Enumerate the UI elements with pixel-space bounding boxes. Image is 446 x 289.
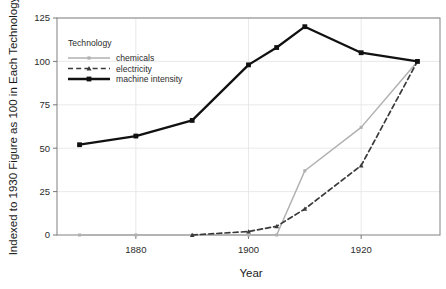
x-tick-label: 1920: [351, 244, 372, 255]
x-tick-label: 1900: [238, 244, 259, 255]
legend-label: electricity: [116, 64, 153, 74]
data-point-marker: [246, 62, 251, 67]
x-axis-title: Year: [239, 267, 262, 279]
chart-container: 0255075100125 188019001920 Year Indexed …: [0, 0, 446, 289]
data-point-marker: [303, 169, 306, 172]
x-axis-ticks: 188019001920: [125, 235, 371, 255]
y-tick-label: 50: [39, 143, 50, 154]
x-tick-label: 1880: [125, 244, 146, 255]
data-point-marker: [78, 234, 81, 237]
data-point-marker: [87, 77, 92, 82]
legend-label: chemicals: [116, 53, 154, 63]
data-point-marker: [77, 142, 82, 147]
data-point-marker: [302, 24, 307, 29]
data-point-marker: [359, 50, 364, 55]
legend-title: Technology: [68, 38, 112, 48]
y-tick-label: 125: [34, 12, 50, 23]
y-axis-ticks: 0255075100125: [34, 12, 57, 240]
data-point-marker: [275, 234, 278, 237]
y-tick-label: 100: [34, 56, 50, 67]
y-axis-title: Indexed to 1930 Figure as 100 in Each Te…: [7, 0, 19, 255]
line-chart: 0255075100125 188019001920 Year Indexed …: [0, 0, 446, 289]
data-point-marker: [133, 134, 138, 139]
data-point-marker: [360, 126, 363, 129]
y-tick-label: 75: [39, 99, 50, 110]
data-point-marker: [274, 45, 279, 50]
data-point-marker: [87, 56, 90, 59]
data-point-marker: [415, 59, 420, 64]
data-point-marker: [134, 234, 137, 237]
data-point-marker: [190, 118, 195, 123]
y-tick-label: 0: [45, 229, 50, 240]
y-tick-label: 25: [39, 186, 50, 197]
legend-label: machine intensity: [116, 74, 183, 84]
data-point-marker: [247, 234, 250, 237]
